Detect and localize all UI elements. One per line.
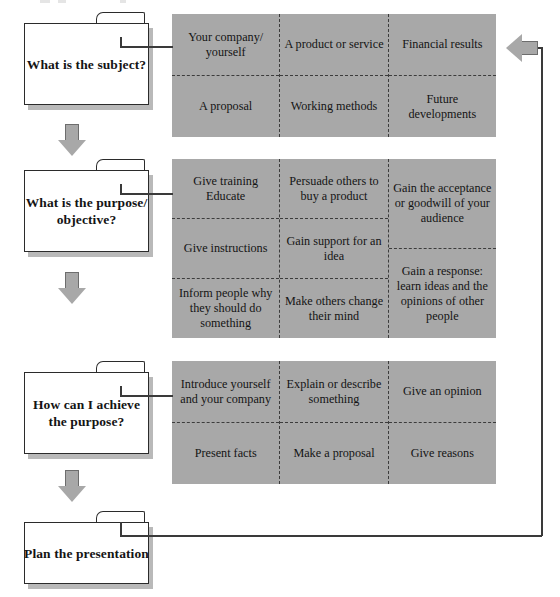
grid-column: Give training Educate Give instructions … (172, 159, 279, 338)
options-grid-purpose: Give training Educate Give instructions … (172, 159, 496, 338)
arrow-stem (65, 272, 79, 289)
feedback-connector-bottom (120, 535, 542, 537)
grid-cell[interactable]: Persuade others to buy a product (280, 159, 387, 218)
diagram-canvas: What is the subject? Your company/ yours… (0, 0, 560, 597)
connector-horizontal (120, 395, 173, 397)
down-block-arrow (58, 272, 86, 305)
stage-box-purpose[interactable]: What is the purpose/ objective? (24, 170, 149, 252)
options-grid-achieve: Introduce yourself and your company Pres… (172, 361, 496, 484)
grid-cell[interactable]: Your company/ yourself (172, 14, 279, 75)
arrow-head (58, 288, 86, 304)
grid-cell[interactable]: Make a proposal (280, 422, 387, 484)
feedback-connector-right (541, 47, 543, 536)
grid-cell[interactable]: Present facts (172, 422, 279, 484)
grid-column: Explain or describe something Make a pro… (279, 361, 387, 484)
grid-cell[interactable]: Financial results (389, 14, 496, 75)
grid-cell[interactable]: Explain or describe something (280, 361, 387, 422)
grid-cell[interactable]: A product or service (280, 14, 387, 75)
feedback-connector-vertical (120, 522, 122, 536)
arrow-stem (65, 470, 79, 487)
left-block-arrow (506, 34, 540, 62)
connector-horizontal (120, 46, 173, 48)
grid-cell[interactable]: Gain the acceptance or goodwill of your … (389, 159, 496, 248)
grid-cell[interactable]: Inform people why they should do somethi… (172, 278, 279, 338)
grid-column: Your company/ yourself A proposal (172, 14, 279, 137)
scan-artifact (120, 0, 126, 3)
down-block-arrow (58, 124, 86, 157)
grid-column: A product or service Working methods (279, 14, 387, 137)
stage-box-achieve[interactable]: How can I achieve the purpose? (24, 372, 149, 454)
arrow-stem (521, 41, 538, 55)
grid-cell[interactable]: Working methods (280, 75, 387, 137)
arrow-head (506, 34, 522, 62)
stage-box-label: What is the subject? (24, 56, 149, 73)
stage-box-label: How can I achieve the purpose? (24, 396, 149, 430)
scan-artifact (58, 0, 66, 3)
arrow-stem (65, 124, 79, 141)
grid-cell[interactable]: Give an opinion (389, 361, 496, 422)
grid-cell[interactable]: Gain a response: learn ideas and the opi… (389, 248, 496, 338)
arrow-head (58, 486, 86, 502)
grid-cell[interactable]: Future developments (389, 75, 496, 137)
grid-cell[interactable]: Give reasons (389, 422, 496, 484)
options-grid-subject: Your company/ yourself A proposal A prod… (172, 14, 496, 137)
grid-column: Give an opinion Give reasons (388, 361, 496, 484)
grid-cell[interactable]: Gain support for an idea (280, 218, 387, 278)
grid-cell[interactable]: Make others change their mind (280, 278, 387, 338)
stage-box-label: What is the purpose/ objective? (24, 194, 149, 228)
stage-box-subject[interactable]: What is the subject? (24, 23, 149, 105)
grid-column: Persuade others to buy a product Gain su… (279, 159, 387, 338)
grid-cell[interactable]: Introduce yourself and your company (172, 361, 279, 422)
grid-cell[interactable]: Give instructions (172, 218, 279, 278)
scan-artifact (40, 0, 50, 3)
connector-horizontal (120, 193, 173, 195)
grid-column: Introduce yourself and your company Pres… (172, 361, 279, 484)
down-block-arrow (58, 470, 86, 503)
final-box-label: Plan the presentation (24, 545, 149, 562)
grid-cell[interactable]: Give training Educate (172, 159, 279, 218)
arrow-head (58, 140, 86, 156)
grid-column: Financial results Future developments (388, 14, 496, 137)
final-box-plan[interactable]: Plan the presentation (24, 522, 149, 584)
grid-column: Gain the acceptance or goodwill of your … (388, 159, 496, 338)
grid-cell[interactable]: A proposal (172, 75, 279, 137)
